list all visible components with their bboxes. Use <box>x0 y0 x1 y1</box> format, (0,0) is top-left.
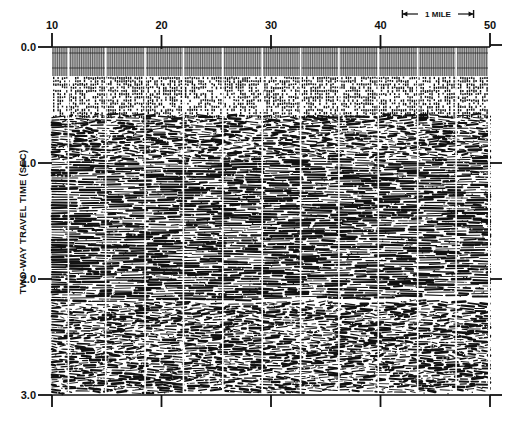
trace-dot <box>396 87 397 89</box>
speckle-dot <box>200 187 201 188</box>
trace-dot <box>240 93 241 95</box>
reflector-segment <box>192 254 217 255</box>
reflector-segment <box>250 217 277 218</box>
reflector-segment <box>243 315 248 316</box>
reflector-segment <box>226 326 234 327</box>
speckle-dot <box>309 168 310 169</box>
speckle-dot <box>147 193 148 194</box>
reflector-segment <box>109 160 116 161</box>
trace-dot <box>84 77 85 80</box>
speckle-dot <box>163 377 164 378</box>
reflector-segment <box>451 176 470 177</box>
speckle-dot <box>104 117 105 118</box>
reflector-segment <box>191 137 196 138</box>
reflector-segment <box>383 348 388 349</box>
trace-dot <box>288 77 289 79</box>
reflector-segment <box>325 295 339 296</box>
trace-dot <box>79 100 80 102</box>
reflector-segment <box>262 228 276 229</box>
speckle-dot <box>174 232 175 233</box>
speckle-dot <box>277 310 278 311</box>
speckle-dot <box>209 173 210 174</box>
reflector-segment <box>427 162 443 163</box>
speckle-dot <box>445 183 446 184</box>
speckle-dot <box>110 379 111 380</box>
speckle-dot <box>369 215 370 216</box>
speckle-dot <box>125 271 126 272</box>
speckle-dot <box>318 343 319 344</box>
reflector-segment <box>367 136 372 137</box>
speckle-dot <box>179 234 180 235</box>
speckle-dot <box>81 206 82 207</box>
trace-dot <box>200 106 201 108</box>
trace-dot <box>438 93 439 95</box>
reflector-segment <box>52 213 69 214</box>
trace-dot <box>473 77 474 79</box>
trace-dot <box>130 115 131 117</box>
speckle-dot <box>70 350 71 351</box>
speckle-dot <box>392 296 393 297</box>
speckle-dot <box>134 175 135 176</box>
speckle-dot <box>95 231 96 232</box>
speckle-dot <box>166 141 167 142</box>
speckle-dot <box>256 214 257 215</box>
speckle-dot <box>155 170 156 171</box>
speckle-dot <box>240 312 241 313</box>
speckle-dot <box>314 335 315 336</box>
speckle-dot <box>59 345 60 346</box>
trace-dot <box>374 93 375 96</box>
speckle-dot <box>347 258 348 259</box>
speckle-dot <box>407 127 408 128</box>
reflector-segment <box>342 374 353 375</box>
reflector-segment <box>315 388 322 389</box>
trace-dot <box>75 93 76 95</box>
reflector-segment <box>212 166 231 167</box>
reflector-segment <box>419 365 430 366</box>
trace-dot <box>282 106 283 108</box>
trace-dot <box>471 84 472 86</box>
reflector-segment <box>444 374 456 375</box>
trace-dot <box>308 109 309 111</box>
trace-dot <box>326 93 327 96</box>
speckle-dot <box>429 183 430 184</box>
trace-dot <box>90 77 91 79</box>
speckle-dot <box>99 228 100 229</box>
trace-dot <box>154 90 155 92</box>
speckle-dot <box>463 162 464 163</box>
reflector-segment <box>52 235 64 236</box>
trace-dot <box>308 83 309 85</box>
reflector-segment <box>453 332 466 333</box>
trace-dot <box>233 99 234 101</box>
trace-dot <box>423 103 424 106</box>
trace-dot <box>178 106 179 109</box>
trace-dot <box>398 96 399 98</box>
reflector-segment <box>119 364 123 365</box>
reflector-segment <box>137 354 144 355</box>
speckle-dot <box>73 293 74 294</box>
speckle-dot <box>330 378 331 379</box>
reflector-segment <box>166 129 172 131</box>
speckle-dot <box>264 139 265 140</box>
trace-dot <box>141 103 142 105</box>
reflector-segment <box>356 165 374 166</box>
speckle-dot <box>83 207 84 208</box>
speckle-dot <box>402 177 403 178</box>
speckle-dot <box>308 285 309 286</box>
trace-dot <box>185 83 186 85</box>
x-tick-label: 10 <box>46 19 58 31</box>
speckle-dot <box>159 349 160 350</box>
reflector-segment <box>378 119 389 120</box>
trace-dot <box>238 89 239 91</box>
speckle-dot <box>159 303 160 304</box>
speckle-dot <box>360 126 361 127</box>
trace-dot <box>240 106 241 108</box>
trace-dot <box>381 112 382 114</box>
trace-dot <box>343 112 344 114</box>
speckle-dot <box>159 117 160 118</box>
trace-dot <box>174 77 175 79</box>
reflector-segment <box>410 328 416 330</box>
reflector-segment <box>121 126 134 127</box>
speckle-dot <box>442 189 443 190</box>
reflector-segment <box>269 149 282 150</box>
reflector-segment <box>127 385 131 386</box>
